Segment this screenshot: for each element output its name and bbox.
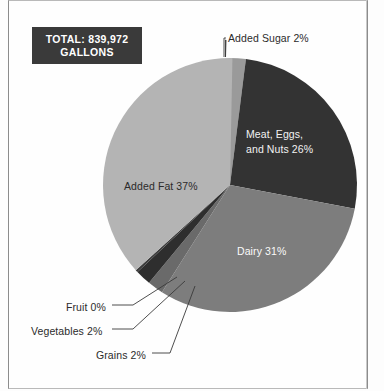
- label-meat-eggs-nuts-line1: Meat, Eggs,: [246, 128, 303, 140]
- chart-page: TOTAL: 839,972 GALLONS Added Sugar 2% Me…: [0, 0, 384, 391]
- label-grains: Grains 2%: [96, 349, 146, 361]
- label-added-fat: Added Fat 37%: [124, 180, 198, 192]
- label-added-sugar: Added Sugar 2%: [228, 32, 309, 44]
- leader-line-added-sugar-stem: [226, 40, 227, 57]
- label-dairy: Dairy 31%: [237, 245, 286, 257]
- label-meat-eggs-nuts: Meat, Eggs, and Nuts 26%: [246, 127, 313, 157]
- label-vegetables: Vegetables 2%: [31, 325, 102, 337]
- label-fruit: Fruit 0%: [66, 301, 106, 313]
- label-meat-eggs-nuts-line2: and Nuts 26%: [246, 142, 313, 157]
